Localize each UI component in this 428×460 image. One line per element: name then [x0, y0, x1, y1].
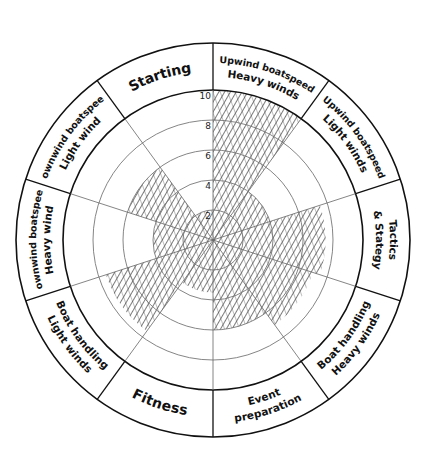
band-divider-7 — [26, 286, 71, 301]
segment-label-2: & Stategy — [371, 210, 386, 271]
tick-6: 6 — [205, 151, 211, 161]
segment-label-7: Downwind boatspeed — [0, 0, 44, 291]
wheel-chart: 246810 Upwind boatspeedHeavy windsUpwind… — [0, 0, 428, 460]
segment-label-1: Upwind boatspeed — [321, 93, 388, 180]
segment-label-7: Heavy wind — [40, 205, 55, 276]
segment-label-5: Fitness — [130, 385, 189, 418]
tick-10: 10 — [200, 91, 212, 101]
tick-2: 2 — [205, 211, 211, 221]
category-labels: Upwind boatspeedHeavy windsUpwind boatsp… — [0, 0, 400, 424]
band-divider-8 — [26, 179, 71, 194]
segment-label-8: Downwind boatspeed — [0, 0, 106, 180]
tick-8: 8 — [205, 121, 211, 131]
scale-tick-labels: 246810 — [200, 91, 212, 221]
band-divider-2 — [356, 179, 401, 194]
band-divider-3 — [356, 286, 401, 301]
tick-4: 4 — [205, 181, 211, 191]
segment-label-9: Starting — [126, 59, 192, 94]
segment-label-2: Tactics — [387, 219, 400, 261]
